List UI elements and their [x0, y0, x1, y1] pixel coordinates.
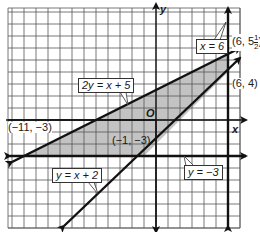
x-axis-label: x: [232, 124, 238, 135]
label-pointer-2y: [120, 92, 128, 105]
y-axis-label: y: [160, 4, 166, 15]
label-y-eq-x-plus-2: y = x + 2: [52, 168, 102, 183]
label-2y-eq-x-plus-5: 2y = x + 5: [78, 78, 134, 93]
point-label-6-5-half-suffix: ): [258, 35, 260, 47]
coordinate-graph: [0, 0, 260, 232]
point-label-neg1-neg3: (−1, −3): [112, 135, 151, 146]
origin-label: O: [146, 108, 155, 119]
point-label-6-4: (6, 4): [232, 78, 258, 89]
label-y-eq-neg-3: y = −3: [184, 165, 223, 180]
point-label-6-5-half-prefix: (6, 5: [232, 35, 254, 47]
point-label-neg11-neg3: (−11, −3): [8, 122, 52, 133]
label-x-eq-6: x = 6: [196, 39, 228, 54]
point-label-6-5-half: (6, 512): [232, 34, 260, 51]
